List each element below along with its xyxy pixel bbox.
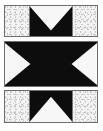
bottom-panel — [4, 90, 98, 123]
middle-panel-shape — [5, 42, 97, 86]
top-panel — [4, 5, 98, 37]
top-panel-shape — [5, 6, 97, 36]
middle-panel — [4, 41, 98, 87]
bottom-panel-shape — [5, 91, 97, 122]
figure-container — [0, 0, 103, 131]
